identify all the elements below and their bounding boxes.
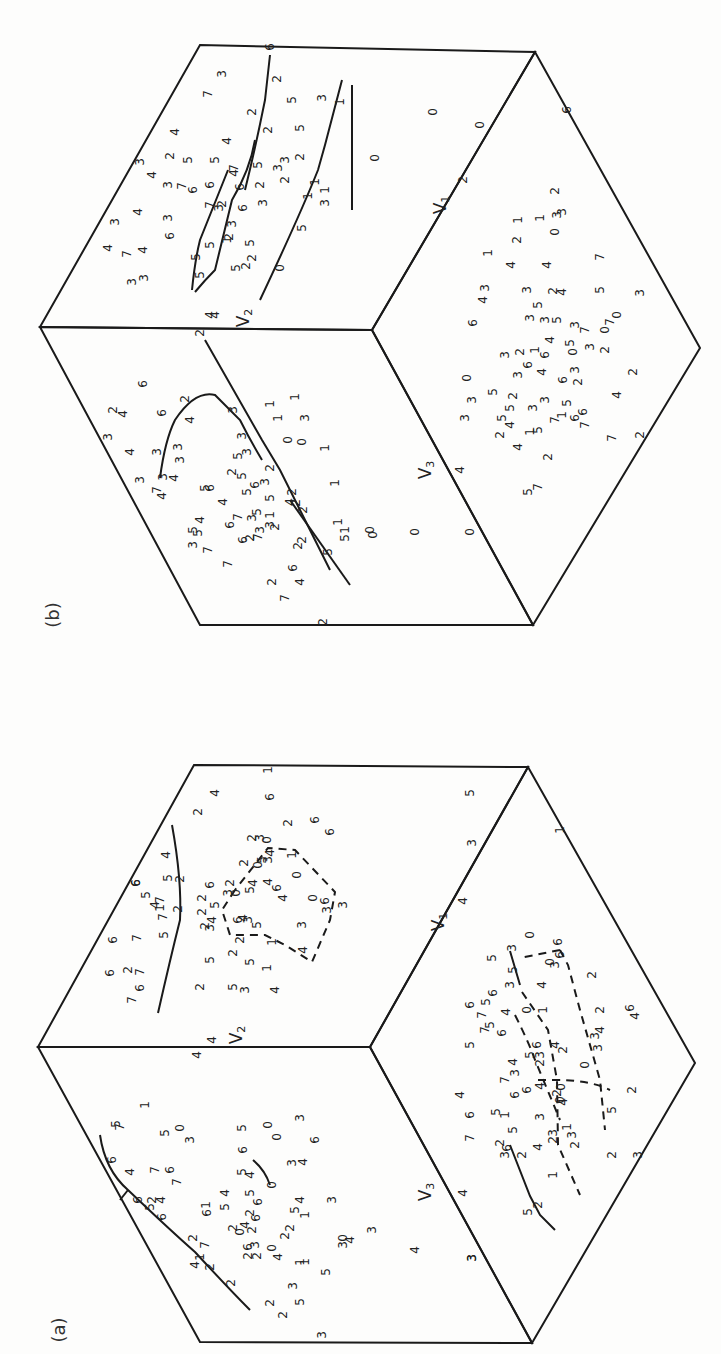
data-point-label: 2 [625,1086,639,1094]
fitted-curve [205,340,330,570]
data-point-label: 2 [293,153,307,161]
data-point-label: 4 [216,498,230,506]
data-point-label: 6 [105,1156,119,1164]
cube-top-face [38,765,528,1047]
data-point-label: 3 [520,286,534,294]
data-point-label: 6 [106,936,120,944]
data-point-label: 6 [236,1146,250,1154]
data-point-label: 7 [231,513,245,521]
data-point-label: 5 [250,508,264,516]
data-point-label: 3 [550,211,564,219]
data-point-label: 2 [186,1234,200,1242]
data-point-label: 4 [188,1261,202,1269]
data-point-label: 3 [161,214,175,222]
data-point-label: 1 [498,1111,512,1119]
data-point-label: 5 [218,1203,232,1211]
data-point-label: 5 [495,414,509,422]
data-point-label: 5 [203,241,217,249]
data-point-label: 6 [136,380,150,388]
axis-tick-label: 3 [631,1151,645,1159]
data-point-label: 4 [276,894,290,902]
data-point-label: 4 [101,244,115,252]
data-point-label: 5 [158,1129,172,1137]
data-point-label: 4 [205,916,219,924]
data-point-label: 4 [220,137,234,145]
data-point-label: 5 [109,1120,123,1128]
data-point-label: 4 [535,981,549,989]
data-point-label: 6 [553,951,567,959]
data-point-label: 6 [508,1091,522,1099]
data-point-label: 7 [463,1134,477,1142]
data-point-label: 3 [508,1069,522,1077]
data-point-label: 5 [293,1298,307,1306]
data-point-label: 3 [225,220,239,228]
data-point-label: 0 [460,374,474,382]
data-point-label: 3 [526,404,540,412]
data-point-label: 3 [253,526,267,534]
data-point-label: 1 [293,1258,307,1266]
data-point-label: 6 [200,1209,214,1217]
data-point-label: 5 [189,253,203,261]
data-point-label: 4 [208,789,222,797]
data-point-label: 0 [610,311,624,319]
data-point-label: 5 [531,301,545,309]
data-point-label: 3 [278,156,292,164]
data-point-label: 4 [506,1058,520,1066]
data-point-label: 3 [568,366,582,374]
data-point-label: 3 [583,343,597,351]
data-point-label: 1 [536,1006,550,1014]
data-point-label: 5 [563,339,577,347]
panel-label-a: (a) [48,1317,69,1342]
data-point-label: 0 [520,1006,534,1014]
data-point-label: 6 [270,884,284,892]
data-point-label: 6 [576,408,590,416]
data-point-label: 5 [295,224,309,232]
data-point-label: 6 [163,1166,177,1174]
data-point-label: 6 [530,1041,544,1049]
data-point-label: 5 [463,1041,477,1049]
data-point-label: 7 [578,326,592,334]
data-point-label: 4 [499,1008,513,1016]
axis-label-v2: V2 [233,309,255,328]
fitted-curve [120,1190,128,1200]
data-point-label: 4 [531,1143,545,1151]
data-point-label: 4 [556,1098,570,1106]
data-point-label: 4 [628,1012,642,1020]
axis-tick-label: 3 [465,1254,479,1262]
data-point-label: 7 [130,934,144,942]
axis-tick-label: 3 [315,1331,329,1339]
data-point-label: 5 [235,1124,249,1132]
data-point-label: 3 [238,986,252,994]
data-point-label: 0 [273,264,287,272]
data-point-label: 5 [203,956,217,964]
data-point-label: 4 [159,851,173,859]
data-point-label: 4 [168,128,182,136]
data-point-label: 6 [203,181,217,189]
data-point-label: 2 [245,1226,259,1234]
data-point-label: 3 [293,1114,307,1122]
data-point-label: 5 [463,789,477,797]
data-point-label: 2 [493,431,507,439]
data-point-label: 0 [260,836,274,844]
data-point-label: 5 [479,998,493,1006]
data-point-label: 4 [193,516,207,524]
data-point-label: 4 [293,578,307,586]
data-point-label: 5 [506,966,520,974]
data-point-label: 2 [296,506,310,514]
data-point-label: 6 [163,232,177,240]
axis-tick-label: 4 [190,1051,204,1059]
data-point-label: 5 [208,901,222,909]
data-point-label: 4 [503,421,517,429]
data-point-label: 4 [123,1168,137,1176]
data-point-label: 3 [325,1196,339,1204]
data-point-label: 5 [263,494,277,502]
data-point-label: 2 [270,75,284,83]
axis-label-v2: V2 [226,1026,248,1045]
axis-label-v1: V1 [430,196,452,215]
data-point-label: 7 [605,434,619,442]
data-point-label: 1 [333,98,347,106]
data-point-label: 6 [308,816,322,824]
data-point-label: 4 [243,1171,257,1179]
data-point-label: 5 [243,239,257,247]
axis-tick-label: 2 [193,329,207,337]
